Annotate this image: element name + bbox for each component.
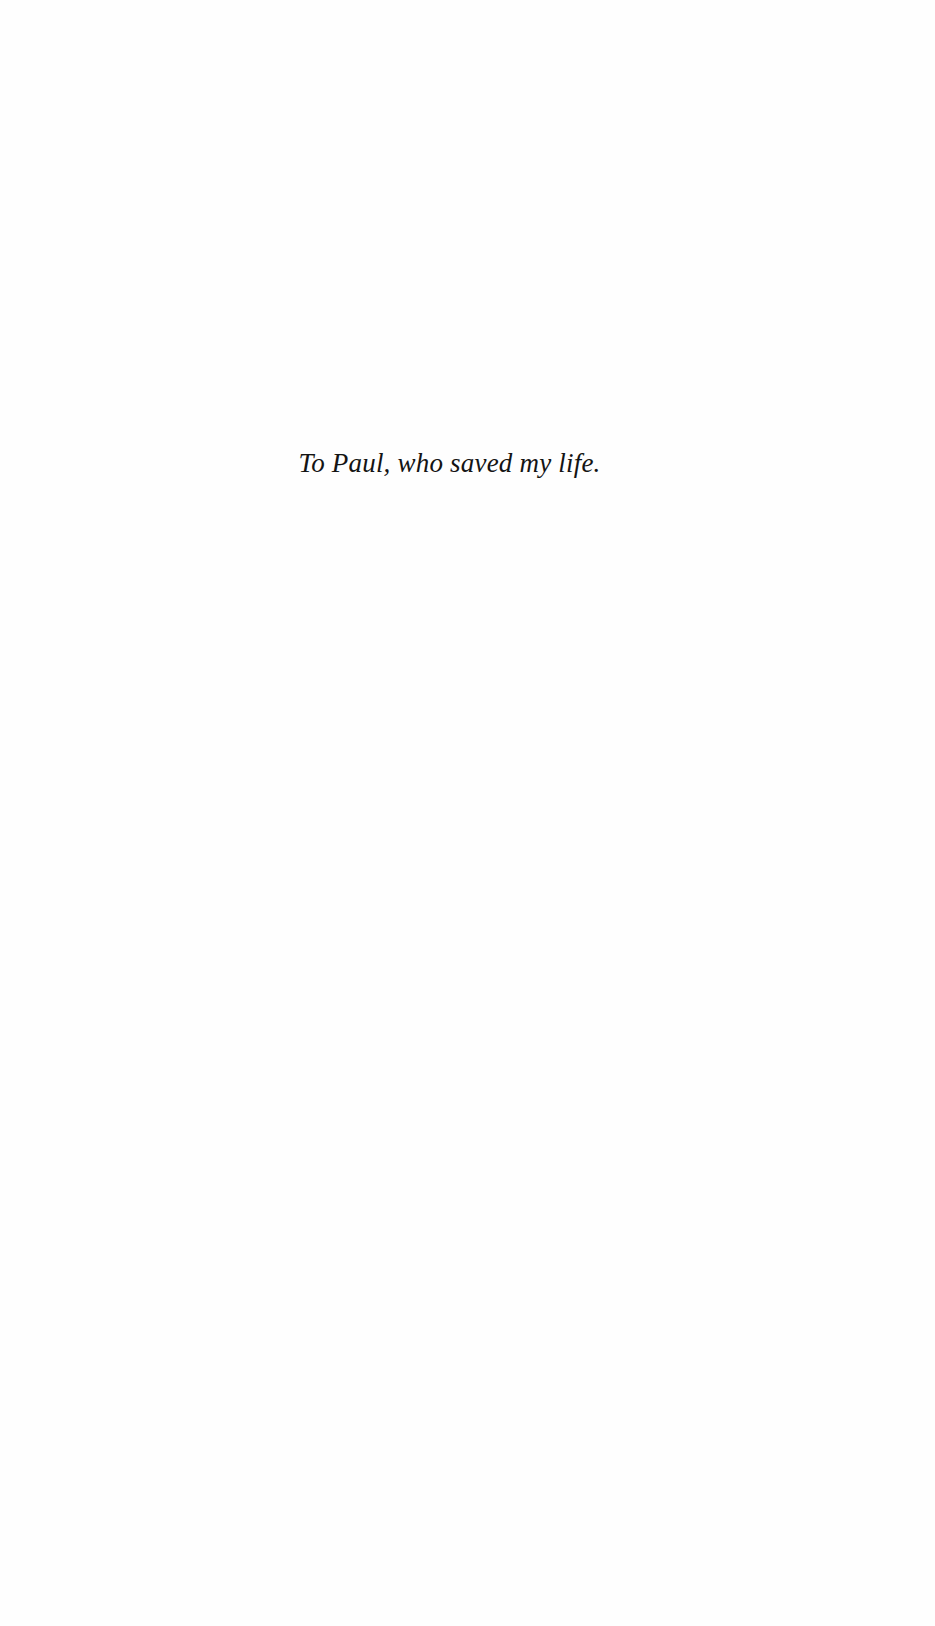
book-page: To Paul, who saved my life. [0, 0, 935, 1626]
dedication-text: To Paul, who saved my life. [0, 445, 935, 481]
